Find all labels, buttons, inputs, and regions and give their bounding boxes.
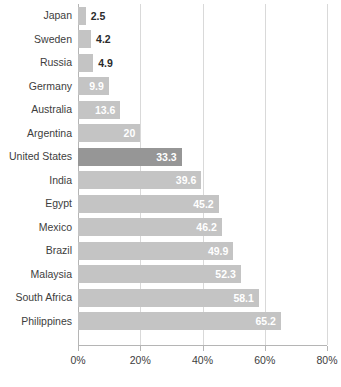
bar-row: Mexico46.2 xyxy=(78,216,327,240)
bar-value-label: 20 xyxy=(124,124,136,142)
x-tick-20 xyxy=(140,346,141,351)
bar-value-label: 45.2 xyxy=(193,195,213,213)
category-label: Russia xyxy=(40,51,72,75)
bar-row: Germany9.9 xyxy=(78,75,327,99)
category-label: Philippines xyxy=(21,310,72,334)
bar-value-label: 2.5 xyxy=(91,7,106,25)
category-label: Argentina xyxy=(27,122,72,146)
bar[interactable]: 9.9 xyxy=(78,77,109,95)
x-tick-40 xyxy=(203,346,204,351)
bar-value-label: 33.3 xyxy=(156,148,176,166)
bar[interactable]: 39.6 xyxy=(78,171,201,189)
bar[interactable]: 46.2 xyxy=(78,218,222,236)
bar[interactable]: 4.2 xyxy=(78,30,91,48)
category-label: Brazil xyxy=(46,239,72,263)
bar-row: Australia13.6 xyxy=(78,98,327,122)
bar-row: Malaysia52.3 xyxy=(78,263,327,287)
x-tick-label: 0% xyxy=(70,354,85,366)
x-tick-label: 60% xyxy=(254,354,275,366)
bar[interactable]: 20 xyxy=(78,124,140,142)
bar-row: Brazil49.9 xyxy=(78,239,327,263)
bar[interactable]: 4.9 xyxy=(78,54,93,72)
bar-value-label: 49.9 xyxy=(208,242,228,260)
category-label: Malaysia xyxy=(31,263,72,287)
x-tick-0 xyxy=(78,346,79,351)
bar-value-label: 65.2 xyxy=(255,312,275,330)
category-label: Mexico xyxy=(39,216,72,240)
category-label: Australia xyxy=(31,98,72,122)
category-label: United States xyxy=(9,145,72,169)
bar[interactable]: 52.3 xyxy=(78,265,241,283)
bar-value-label: 4.2 xyxy=(96,30,111,48)
bar-value-label: 46.2 xyxy=(196,218,216,236)
x-tick-80 xyxy=(327,346,328,351)
bar-row: Egypt45.2 xyxy=(78,192,327,216)
bar-value-label: 13.6 xyxy=(95,101,115,119)
x-tick-60 xyxy=(265,346,266,351)
bar[interactable]: 49.9 xyxy=(78,242,233,260)
x-tick-label: 40% xyxy=(192,354,213,366)
category-label: India xyxy=(49,169,72,193)
category-label: Egypt xyxy=(45,192,72,216)
bar-row: Sweden4.2 xyxy=(78,28,327,52)
bar[interactable]: 45.2 xyxy=(78,195,219,213)
bar-row: Russia4.9 xyxy=(78,51,327,75)
bar[interactable]: 13.6 xyxy=(78,101,120,119)
bar-row: Japan2.5 xyxy=(78,4,327,28)
bar-value-label: 52.3 xyxy=(215,265,235,283)
category-label: South Africa xyxy=(15,286,72,310)
gridline-80 xyxy=(327,4,328,345)
x-tick-label: 20% xyxy=(130,354,151,366)
category-label: Germany xyxy=(29,75,72,99)
bar-value-label: 9.9 xyxy=(89,77,104,95)
bar-highlighted[interactable]: 33.3 xyxy=(78,148,182,166)
bar[interactable]: 2.5 xyxy=(78,7,86,25)
bar-row: Argentina20 xyxy=(78,122,327,146)
bar-row: South Africa58.1 xyxy=(78,286,327,310)
category-label: Sweden xyxy=(34,28,72,52)
bar-value-label: 39.6 xyxy=(176,171,196,189)
bar-value-label: 4.9 xyxy=(98,54,113,72)
category-label: Japan xyxy=(43,4,72,28)
bar-chart: Japan2.5Sweden4.2Russia4.9Germany9.9Aust… xyxy=(0,0,341,387)
bar-row: India39.6 xyxy=(78,169,327,193)
plot-area: Japan2.5Sweden4.2Russia4.9Germany9.9Aust… xyxy=(78,4,327,345)
bar-value-label: 58.1 xyxy=(233,289,253,307)
bar-rows: Japan2.5Sweden4.2Russia4.9Germany9.9Aust… xyxy=(78,4,327,345)
x-tick-label: 80% xyxy=(316,354,337,366)
bar-row: Philippines65.2 xyxy=(78,310,327,334)
bar[interactable]: 58.1 xyxy=(78,289,259,307)
bar-row: United States33.3 xyxy=(78,145,327,169)
bar[interactable]: 65.2 xyxy=(78,312,281,330)
